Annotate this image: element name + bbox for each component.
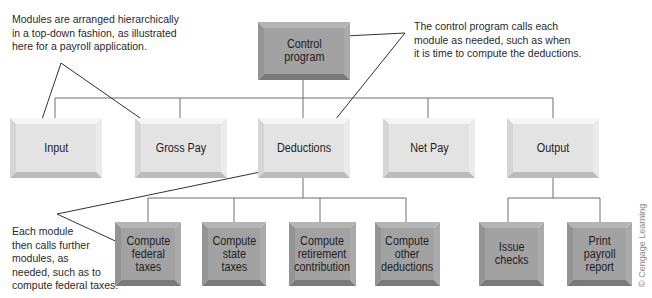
node-gross-pay: Gross Pay — [135, 118, 227, 178]
node-control-program: Control program — [258, 22, 350, 80]
bevel-bottom — [258, 172, 350, 178]
bevel-top — [115, 222, 181, 228]
bevel-right — [434, 222, 440, 286]
payroll-hierarchy-diagram: Control program Input Gross Pay Deductio… — [0, 0, 652, 298]
bevel-top — [258, 22, 350, 28]
bevel-left — [202, 222, 208, 286]
bevel-bottom — [115, 280, 181, 286]
bevel-top — [135, 118, 227, 124]
node-issue-checks: Issue checks — [479, 222, 544, 286]
bevel-bottom — [202, 280, 266, 286]
bevel-right — [96, 118, 102, 178]
bevel-bottom — [258, 74, 350, 80]
annotation-hierarchy: Modules are arranged hierarchically in a… — [12, 13, 179, 54]
bevel-right — [469, 118, 475, 178]
bevel-left — [383, 118, 389, 178]
node-deductions: Deductions — [258, 118, 350, 178]
bevel-left — [507, 118, 513, 178]
node-net-pay: Net Pay — [383, 118, 475, 178]
bevel-right — [344, 118, 350, 178]
bevel-top — [375, 222, 440, 228]
bevel-top — [289, 222, 356, 228]
node-label: Print payroll report — [584, 235, 616, 274]
node-label: Output — [537, 142, 569, 155]
bevel-right — [175, 222, 181, 286]
bevel-right — [260, 222, 266, 286]
node-output: Output — [507, 118, 599, 178]
bevel-bottom — [375, 280, 440, 286]
bevel-top — [258, 118, 350, 124]
node-label: Input — [44, 142, 68, 155]
bevel-right — [344, 22, 350, 80]
node-label: Compute retirement contribution — [295, 235, 351, 274]
node-label: Deductions — [277, 142, 331, 155]
bevel-bottom — [567, 280, 632, 286]
bevel-left — [10, 118, 16, 178]
bevel-bottom — [135, 172, 227, 178]
bevel-right — [538, 222, 544, 286]
node-label: Compute state taxes — [212, 235, 256, 274]
node-label: Compute other deductions — [381, 235, 433, 274]
bevel-left — [567, 222, 573, 286]
node-compute-federal-taxes: Compute federal taxes — [115, 222, 181, 286]
bevel-right — [593, 118, 599, 178]
node-label: Compute federal taxes — [126, 235, 170, 274]
bevel-top — [202, 222, 266, 228]
annotation-control-program: The control program calls each module as… — [414, 20, 582, 61]
node-compute-state-taxes: Compute state taxes — [202, 222, 266, 286]
node-label: Issue checks — [495, 241, 529, 267]
node-label: Gross Pay — [156, 142, 206, 155]
bevel-bottom — [383, 172, 475, 178]
bevel-top — [507, 118, 599, 124]
bevel-top — [383, 118, 475, 124]
bevel-left — [135, 118, 141, 178]
bevel-top — [10, 118, 102, 124]
bevel-bottom — [479, 280, 544, 286]
node-label: Net Pay — [410, 142, 448, 155]
node-compute-other-deductions: Compute other deductions — [375, 222, 440, 286]
copyright-credit: © Cengage Learning — [637, 204, 647, 287]
bevel-top — [479, 222, 544, 228]
bevel-bottom — [289, 280, 356, 286]
bevel-right — [221, 118, 227, 178]
bevel-right — [626, 222, 632, 286]
bevel-bottom — [507, 172, 599, 178]
node-compute-retirement-contribution: Compute retirement contribution — [289, 222, 356, 286]
node-label: Control program — [284, 38, 324, 64]
bevel-right — [350, 222, 356, 286]
bevel-bottom — [10, 172, 102, 178]
bevel-left — [479, 222, 485, 286]
annotation-further-modules: Each module then calls further modules, … — [12, 225, 118, 293]
bevel-top — [567, 222, 632, 228]
bevel-left — [258, 118, 264, 178]
bevel-left — [258, 22, 264, 80]
node-print-payroll-report: Print payroll report — [567, 222, 632, 286]
node-input: Input — [10, 118, 102, 178]
